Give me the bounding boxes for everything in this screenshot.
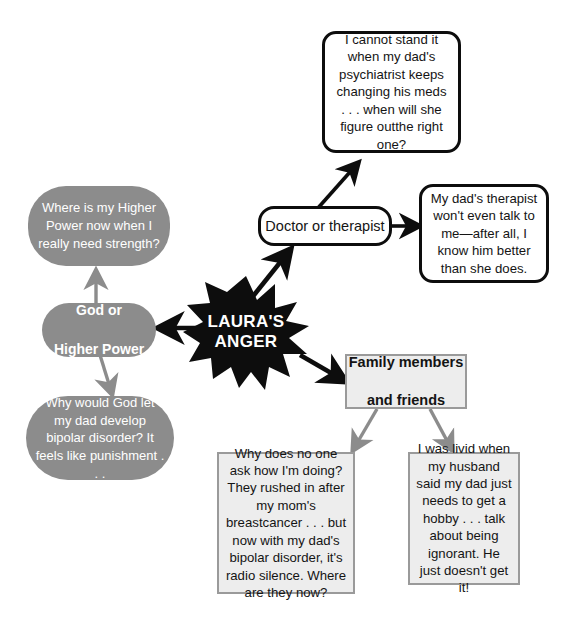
branch-node-family-label: Family membersand friends bbox=[347, 353, 465, 410]
branch-node-god-line1: God or bbox=[42, 301, 156, 320]
branch-node-family-line2: and friends bbox=[347, 391, 465, 410]
branch-node-doctor-label: Doctor or therapist bbox=[261, 217, 389, 235]
statement-family-i-was-livid-text: I was livid when my husband said my dad … bbox=[416, 440, 512, 597]
edge-family-to-statement-left bbox=[353, 409, 377, 450]
branch-node-god-line2: Higher Power bbox=[42, 340, 156, 359]
statement-god-higher-power-now[interactable]: Where is my Higher Power now when I real… bbox=[28, 186, 170, 266]
branch-node-family-members-and-friends[interactable]: Family membersand friends bbox=[345, 354, 467, 409]
statement-god-higher-power-now-text: Where is my Higher Power now when I real… bbox=[37, 199, 161, 252]
statement-doctor-therapist-wont-talk[interactable]: My dad's therapist won't even talk to me… bbox=[419, 184, 549, 283]
diagram-canvas: LAURA'S ANGER God orHigher Power Where i… bbox=[0, 0, 576, 621]
branch-node-doctor-or-therapist[interactable]: Doctor or therapist bbox=[258, 206, 392, 246]
statement-god-why-would-god-let[interactable]: Why would God let my dad develop bipolar… bbox=[26, 396, 174, 480]
statement-family-why-does-no-one-ask-text: Why does no one ask how I'm doing? They … bbox=[225, 445, 347, 602]
edge-doctor-to-statement-up bbox=[318, 163, 358, 208]
branch-node-family-line1: Family members bbox=[347, 353, 465, 372]
center-node-label-line2: ANGER bbox=[215, 332, 278, 351]
statement-family-i-was-livid[interactable]: I was livid when my husband said my dad … bbox=[408, 452, 520, 585]
statement-doctor-therapist-wont-talk-text: My dad's therapist won't even talk to me… bbox=[430, 190, 538, 277]
edge-god-to-statement-down bbox=[100, 355, 112, 394]
statement-doctor-changing-meds[interactable]: I cannot stand it when my dad's psychiat… bbox=[322, 31, 461, 153]
statement-family-why-does-no-one-ask[interactable]: Why does no one ask how I'm doing? They … bbox=[217, 452, 355, 594]
branch-node-god-label: God orHigher Power bbox=[42, 301, 156, 358]
center-node-label-line1: LAURA'S bbox=[208, 312, 285, 331]
statement-doctor-changing-meds-text: I cannot stand it when my dad's psychiat… bbox=[333, 31, 450, 153]
branch-node-god-or-higher-power[interactable]: God orHigher Power bbox=[42, 303, 156, 357]
center-node-label: LAURA'S ANGER bbox=[183, 312, 309, 351]
statement-god-why-would-god-let-text: Why would God let my dad develop bipolar… bbox=[35, 394, 165, 482]
center-node-lauras-anger[interactable]: LAURA'S ANGER bbox=[183, 274, 309, 390]
